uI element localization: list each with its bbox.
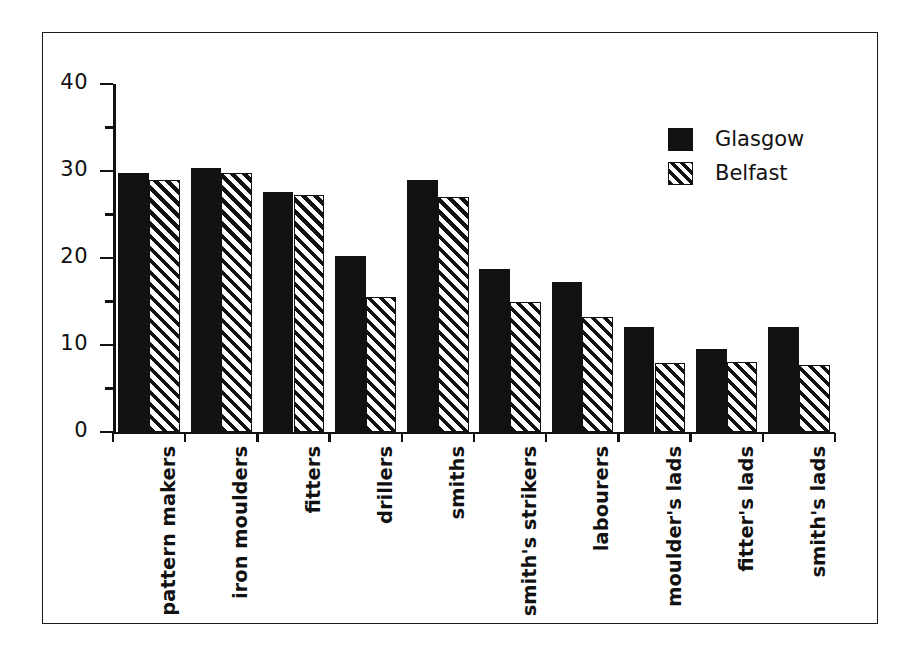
x-axis-label-4: smiths: [446, 373, 469, 446]
x-tick: [834, 433, 837, 442]
bar-glasgow-9: [768, 327, 799, 432]
y-tick-label: 30: [44, 157, 88, 181]
bar-glasgow-2: [263, 192, 294, 432]
legend-label: Belfast: [715, 161, 788, 185]
x-axis-label-text: fitter's lads: [735, 446, 758, 572]
bar-glasgow-1: [191, 168, 222, 432]
x-tick: [328, 433, 331, 442]
bar-glasgow-0: [118, 173, 149, 432]
x-axis-label-9: smith's lads: [807, 314, 830, 446]
y-tick-major: [100, 257, 113, 260]
y-tick-minor: [105, 300, 113, 303]
y-tick-minor: [105, 213, 113, 216]
x-axis-label-text: labourers: [590, 446, 613, 551]
hatched-swatch: [668, 162, 693, 185]
y-tick-label: 40: [44, 70, 88, 94]
y-tick-minor: [105, 126, 113, 129]
x-axis-label-text: smith's lads: [807, 446, 830, 578]
bar-glasgow-5: [479, 269, 510, 432]
legend-label: Glasgow: [715, 127, 804, 151]
x-axis-label-6: labourers: [590, 341, 613, 446]
x-tick: [401, 433, 404, 442]
x-tick: [762, 433, 765, 442]
x-axis-label-text: pattern makers: [157, 446, 180, 616]
chart-figure: 010203040 pattern makersiron mouldersfit…: [0, 0, 918, 658]
y-tick-major: [100, 170, 113, 173]
y-tick-major: [100, 83, 113, 86]
solid-black-swatch: [668, 128, 693, 151]
x-axis-label-text: iron moulders: [229, 446, 252, 599]
x-axis-label-3: drillers: [374, 368, 397, 446]
x-axis-label-text: smiths: [446, 446, 469, 519]
x-axis-label-text: moulder's lads: [663, 446, 686, 607]
x-axis-label-2: fitters: [302, 378, 325, 446]
x-tick: [617, 433, 620, 442]
x-tick: [256, 433, 259, 442]
x-axis-label-8: fitter's lads: [735, 320, 758, 446]
chart-legend: GlasgowBelfast: [668, 124, 804, 192]
bar-glasgow-8: [696, 349, 727, 432]
legend-item-belfast: Belfast: [668, 158, 804, 188]
bar-glasgow-3: [335, 256, 366, 432]
x-axis-label-5: smith's strikers: [518, 276, 541, 446]
plot-area: 010203040 pattern makersiron mouldersfit…: [0, 0, 918, 658]
x-axis-label-text: smith's strikers: [518, 446, 541, 616]
x-tick: [112, 433, 115, 442]
x-axis-label-1: iron moulders: [229, 293, 252, 446]
y-tick-minor: [105, 387, 113, 390]
x-axis-label-7: moulder's lads: [663, 285, 686, 446]
bar-glasgow-7: [624, 327, 655, 432]
x-tick: [545, 433, 548, 442]
y-tick-major: [100, 344, 113, 347]
x-axis-label-0: pattern makers: [157, 276, 180, 446]
y-tick-label: 20: [44, 244, 88, 268]
bar-glasgow-4: [407, 180, 438, 432]
x-tick: [689, 433, 692, 442]
y-tick-label: 10: [44, 331, 88, 355]
x-axis-label-text: fitters: [302, 446, 325, 514]
bar-glasgow-6: [552, 282, 583, 432]
x-tick: [473, 433, 476, 442]
y-tick-label: 0: [44, 418, 88, 442]
legend-item-glasgow: Glasgow: [668, 124, 804, 154]
x-tick: [184, 433, 187, 442]
x-axis-label-text: drillers: [374, 446, 397, 524]
